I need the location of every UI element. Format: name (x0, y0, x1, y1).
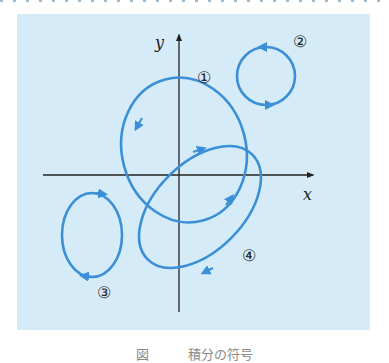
y-axis-label: y (154, 33, 165, 52)
curve-4-label: ④ (242, 246, 256, 265)
panel-background (17, 14, 370, 330)
diagram-panel: x y ① ② ③ ④ (17, 14, 370, 330)
dotted-border (0, 0, 389, 4)
curve-2-label: ② (293, 32, 307, 51)
curve-3-label: ③ (97, 283, 111, 302)
curve-1-label: ① (197, 68, 211, 87)
figure-caption: 図 積分の符号 (0, 344, 389, 363)
x-axis-label: x (303, 185, 312, 204)
